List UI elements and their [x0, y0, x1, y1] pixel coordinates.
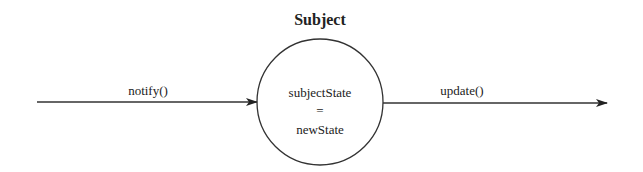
node-equals: =	[316, 103, 323, 118]
notify-label: notify()	[128, 83, 168, 98]
node-state-name: subjectState	[289, 85, 352, 100]
incoming-arrow: notify()	[37, 83, 257, 102]
outgoing-arrow: update()	[383, 83, 607, 103]
observer-state-diagram: Subject notify() subjectState = newState…	[0, 0, 643, 172]
update-label: update()	[440, 83, 483, 98]
diagram-title: Subject	[294, 11, 346, 29]
node-new-state: newState	[296, 122, 344, 137]
subject-node: subjectState = newState	[257, 39, 383, 165]
